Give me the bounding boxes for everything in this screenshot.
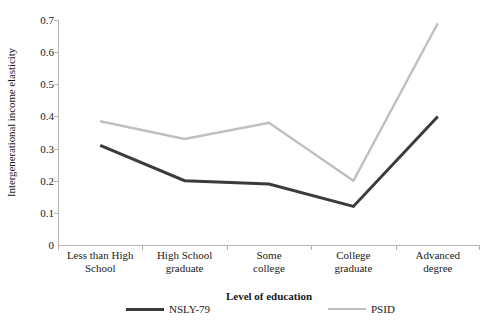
y-axis-tick-mark xyxy=(54,20,58,21)
x-axis-tick-label-line: graduate xyxy=(142,262,226,275)
y-axis-tick-mark xyxy=(54,52,58,53)
y-axis-tick-label: 0.1 xyxy=(40,207,54,218)
legend-swatch-icon xyxy=(328,308,366,310)
x-axis-tick-label: Somecollege xyxy=(227,249,311,275)
legend-swatch-icon xyxy=(126,308,164,311)
chart-container: Intergenerational income elasticity 00.1… xyxy=(0,0,493,327)
series-lines xyxy=(58,20,480,245)
y-axis-tick-labels: 00.10.20.30.40.50.60.7 xyxy=(26,0,54,327)
legend-label: NSLY-79 xyxy=(169,303,210,315)
x-axis-tick-label-line: Some xyxy=(227,249,311,262)
x-axis-line xyxy=(58,245,480,246)
y-axis-tick-mark xyxy=(54,116,58,117)
x-axis-tick-label: Collegegraduate xyxy=(311,249,395,275)
x-axis-tick-label-line: Advanced xyxy=(396,249,480,262)
x-axis-tick-label: Less than HighSchool xyxy=(58,249,142,275)
y-axis-tick-label: 0.2 xyxy=(40,175,54,186)
y-axis-tick-mark xyxy=(54,84,58,85)
series-line-psid xyxy=(100,23,438,181)
y-axis-title: Intergenerational income elasticity xyxy=(2,0,20,245)
y-axis-tick-mark xyxy=(54,181,58,182)
x-axis-tick-label-line: Less than High xyxy=(58,249,142,262)
chart-legend: NSLY-79PSID xyxy=(58,303,480,323)
plot-area xyxy=(58,20,480,245)
legend-entry-psid[interactable]: PSID xyxy=(328,303,395,315)
y-axis-tick-label: 0.5 xyxy=(40,79,54,90)
x-axis-tick-label-line: School xyxy=(58,262,142,275)
legend-label: PSID xyxy=(371,303,395,315)
x-axis-tick-labels: Less than HighSchoolHigh SchoolgraduateS… xyxy=(58,249,480,289)
x-axis-tick-label-line: degree xyxy=(396,262,480,275)
x-axis-tick-label-line: graduate xyxy=(311,262,395,275)
legend-entry-nsly-79[interactable]: NSLY-79 xyxy=(126,303,210,315)
x-axis-tick-label-line: College xyxy=(311,249,395,262)
y-axis-tick-label: 0.7 xyxy=(40,15,54,26)
series-line-nsly-79 xyxy=(100,116,438,206)
y-axis-tick-label: 0 xyxy=(49,240,55,251)
y-axis-tick-mark xyxy=(54,149,58,150)
x-axis-tick-label-line: college xyxy=(227,262,311,275)
x-axis-title: Level of education xyxy=(58,290,480,302)
y-axis-tick-mark xyxy=(54,213,58,214)
x-axis-tick-label: High Schoolgraduate xyxy=(142,249,226,275)
x-axis-tick-label-line: High School xyxy=(142,249,226,262)
x-axis-tick-label: Advanceddegree xyxy=(396,249,480,275)
y-axis-tick-label: 0.3 xyxy=(40,143,54,154)
y-axis-tick-label: 0.6 xyxy=(40,47,54,58)
y-axis-tick-label: 0.4 xyxy=(40,111,54,122)
